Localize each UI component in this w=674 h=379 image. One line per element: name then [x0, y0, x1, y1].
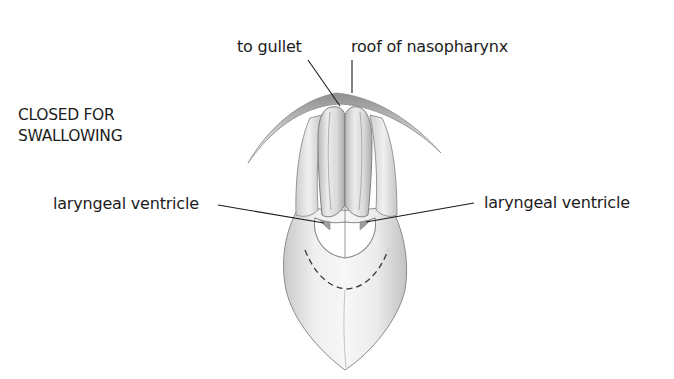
label-to-gullet: to gullet — [237, 37, 302, 57]
larynx-diagram: CLOSED FOR SWALLOWING to gullet roof of … — [0, 0, 674, 379]
larynx-illustration — [0, 0, 674, 379]
label-roof-of-nasopharynx: roof of nasopharynx — [351, 37, 508, 57]
inner-lobes — [318, 107, 372, 217]
label-laryngeal-ventricle-left: laryngeal ventricle — [53, 194, 199, 214]
label-laryngeal-ventricle-right: laryngeal ventricle — [484, 193, 630, 213]
state-caption-line2: SWALLOWING — [18, 126, 122, 147]
state-caption: CLOSED FOR SWALLOWING — [18, 105, 122, 147]
state-caption-line1: CLOSED FOR — [18, 105, 122, 126]
